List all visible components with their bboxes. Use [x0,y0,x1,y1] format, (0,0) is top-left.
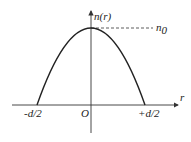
left-boundary-label: -d/2 [24,107,42,119]
y-axis-label: n(r) [94,10,111,23]
origin-label: O [81,107,89,119]
index-profile-diagram: n(r) r O n0 -d/2 +d/2 [0,0,191,142]
peak-label: n0 [156,21,168,36]
x-axis-label: r [180,91,185,103]
right-boundary-label: +d/2 [138,107,160,119]
